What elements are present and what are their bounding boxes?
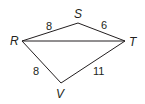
vertex-label-V: V (56, 87, 65, 101)
vertex-label-T: T (129, 35, 138, 49)
edge-length-VT: 11 (93, 65, 104, 77)
edge-RV (22, 41, 61, 83)
quadrilateral-diagram: R S T V 8 6 8 11 (0, 0, 145, 104)
edge-length-RS: 8 (46, 20, 52, 32)
edge-length-ST: 6 (101, 19, 107, 31)
vertex-label-R: R (10, 34, 19, 48)
edge-length-RV: 8 (33, 65, 39, 77)
vertex-label-S: S (74, 7, 82, 21)
